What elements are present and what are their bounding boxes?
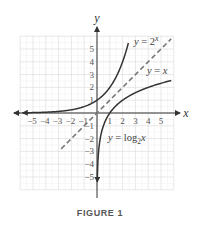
x-axis-label: x — [182, 106, 189, 120]
figure-caption: FIGURE 1 — [77, 208, 123, 218]
x-tick-label: −3 — [53, 116, 63, 126]
y-tick-label: −3 — [84, 146, 94, 156]
y-tick-label: −4 — [84, 159, 94, 169]
label-log2: y = log2x — [107, 132, 146, 146]
y-tick-label: 4 — [90, 57, 95, 67]
label-identity: y = x — [146, 65, 168, 76]
y-tick-label: −2 — [84, 134, 94, 144]
y-tick-label: 5 — [90, 44, 95, 54]
figure-canvas: xy −5−4−3−2−11234554321−1−2−3−4−5 y = 2x… — [0, 0, 200, 225]
x-tick-label: −4 — [40, 116, 50, 126]
x-tick-label: 3 — [133, 116, 138, 126]
label-exp2: y = 2x — [133, 34, 159, 47]
x-tick-label: 2 — [120, 116, 125, 126]
y-tick-label: 2 — [90, 82, 95, 92]
x-tick-label: −5 — [27, 116, 37, 126]
y-tick-label: −1 — [84, 121, 94, 131]
y-tick-label: 3 — [90, 70, 95, 80]
y-tick-label: −5 — [84, 172, 94, 182]
x-tick-label: −2 — [66, 116, 76, 126]
x-tick-label: 4 — [146, 116, 151, 126]
label-eq: = 2 — [139, 36, 155, 47]
label-sup: x — [154, 34, 159, 43]
curve-exp2 — [23, 43, 129, 113]
label-rhs: x — [162, 65, 168, 76]
y-axis-label: y — [93, 11, 100, 25]
label-eq: = — [152, 65, 163, 76]
x-tick-label: 5 — [159, 116, 164, 126]
label-eq: = log — [113, 132, 138, 143]
axes: xy — [14, 11, 189, 198]
label-rhs: x — [140, 132, 146, 143]
x-tick-label: 1 — [108, 116, 113, 126]
